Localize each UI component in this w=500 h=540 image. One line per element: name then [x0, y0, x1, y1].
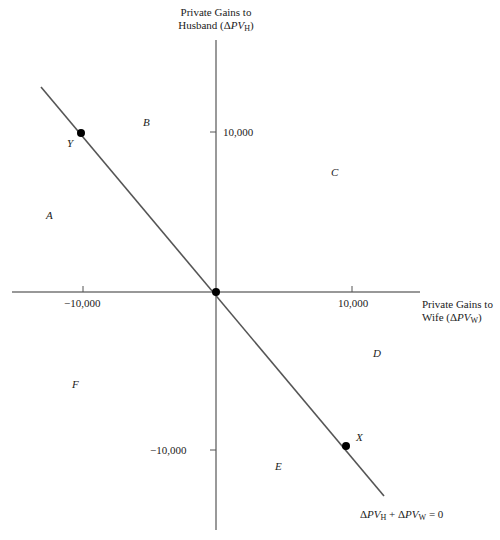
x-tick-label-pos: 10,000: [338, 297, 368, 310]
y-axis-label: Private Gains to Husband (ΔPVH): [160, 6, 272, 35]
region-label-b: B: [143, 116, 150, 128]
y-tick-label-pos: 10,000: [223, 126, 253, 139]
region-label-a: A: [46, 209, 53, 221]
region-label-d: D: [373, 347, 381, 359]
point-label-x: X: [356, 431, 363, 443]
x-axis-label-line1: Private Gains to: [422, 298, 493, 311]
x-tick-label-neg: −10,000: [64, 297, 100, 310]
y-axis-label-line2: Husband (ΔPVH): [160, 19, 272, 35]
y-tick-label-neg: −10,000: [150, 444, 186, 457]
region-label-f: F: [72, 378, 79, 390]
region-label-c: C: [331, 166, 338, 178]
point-y: [77, 129, 85, 137]
x-axis-label: Private Gains to Wife (ΔPVW): [422, 298, 493, 327]
point-origin: [212, 288, 220, 296]
point-x: [342, 442, 350, 450]
point-label-y: Y: [67, 137, 73, 149]
region-label-e: E: [275, 460, 282, 472]
zero-sum-equation: ΔPVH + ΔPVW = 0: [360, 508, 443, 524]
x-axis-label-line2: Wife (ΔPVW): [422, 311, 493, 327]
diagram-canvas: [0, 0, 500, 540]
y-axis-label-line1: Private Gains to: [160, 6, 272, 19]
